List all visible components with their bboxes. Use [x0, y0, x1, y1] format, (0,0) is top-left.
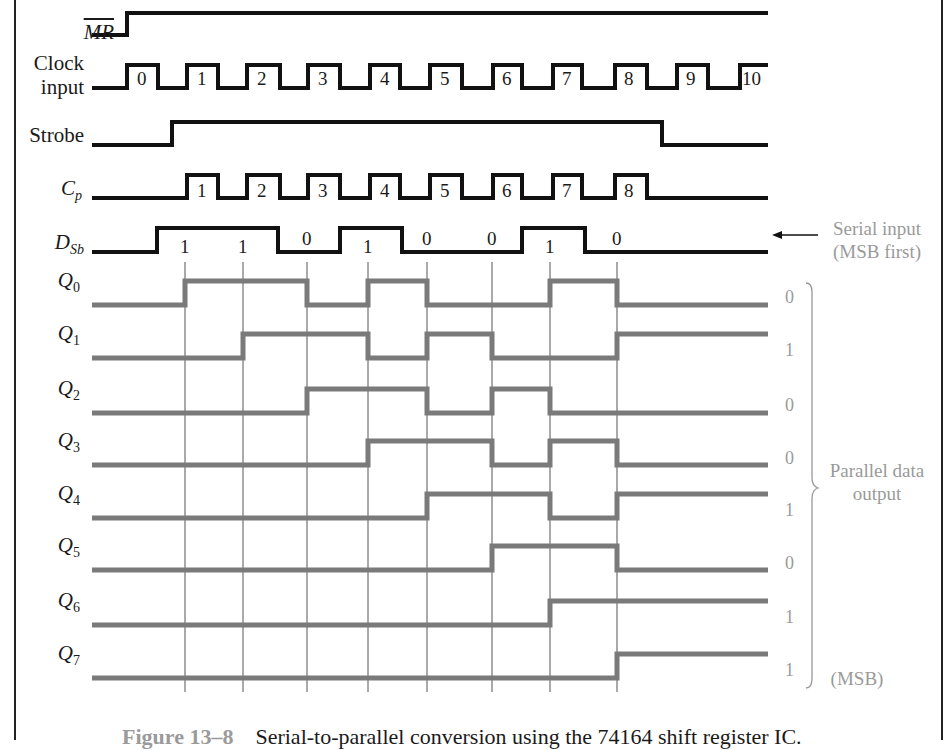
q4-waveform	[92, 494, 768, 518]
q-label-main: Q	[58, 428, 73, 452]
q-label-sub: 6	[73, 600, 80, 615]
q3-waveform	[92, 441, 768, 465]
q-label-sub: 2	[73, 388, 80, 403]
clock-pulse-label-8: 8	[624, 68, 634, 90]
figure-number: Figure 13–8	[122, 724, 233, 749]
q3-label: Q3	[20, 430, 80, 451]
q-label-main: Q	[58, 588, 73, 612]
msb-annotation: (MSB)	[826, 668, 888, 691]
q0-waveform	[92, 281, 768, 305]
dsb-label-sub: Sb	[70, 242, 84, 257]
cp-label: Cp	[20, 178, 82, 199]
dsb-bit-label-2: 1	[238, 236, 248, 258]
q-label-main: Q	[58, 321, 73, 345]
output-bit-q6: 1	[785, 607, 794, 628]
dsb-bit-label-5: 0	[422, 228, 432, 250]
dsb-label: DSb	[20, 232, 84, 253]
q2-waveform	[92, 389, 768, 413]
clock-label-line2: input	[20, 77, 84, 98]
clock-pulse-label-10: 10	[742, 68, 761, 90]
q4-label: Q4	[20, 483, 80, 504]
arrowhead-icon	[772, 231, 782, 239]
clock-waveform	[92, 65, 768, 88]
output-bit-q2: 0	[785, 395, 794, 416]
figure-caption-text: Serial-to-parallel conversion using the …	[255, 724, 801, 749]
q-label-main: Q	[58, 268, 73, 292]
dsb-bit-label-1: 1	[180, 236, 190, 258]
q-label-sub: 4	[73, 493, 80, 508]
q-label-sub: 1	[73, 333, 80, 348]
dsb-label-main: D	[55, 230, 70, 254]
mr-label-text: MR	[84, 20, 114, 44]
brace-icon	[806, 283, 818, 688]
cp-pulse-label-4: 4	[380, 180, 390, 202]
clock-pulse-label-1: 1	[197, 68, 207, 90]
serial-input-line1: Serial input	[822, 218, 932, 241]
cp-pulse-label-3: 3	[318, 180, 328, 202]
cp-pulse-label-7: 7	[562, 180, 572, 202]
q6-waveform	[92, 601, 768, 625]
q7-waveform	[92, 654, 768, 678]
clock-pulse-label-3: 3	[318, 68, 328, 90]
output-bit-q4: 1	[785, 500, 794, 521]
clock-label-line1: Clock	[20, 53, 84, 74]
clock-pulse-label-2: 2	[257, 68, 267, 90]
dsb-bit-label-7: 1	[545, 236, 555, 258]
figure-caption: Figure 13–8Serial-to-parallel conversion…	[122, 724, 802, 750]
dsb-bit-label-3: 0	[302, 228, 312, 250]
output-bit-q5: 0	[785, 553, 794, 574]
q7-label: Q7	[20, 643, 80, 664]
q-label-sub: 7	[73, 653, 80, 668]
q-label-main: Q	[58, 641, 73, 665]
dsb-bit-label-4: 1	[363, 236, 373, 258]
cp-pulse-label-1: 1	[197, 180, 207, 202]
output-bit-q3: 0	[785, 448, 794, 469]
clock-pulse-label-5: 5	[440, 68, 450, 90]
output-bit-q7: 1	[785, 660, 794, 681]
q-label-main: Q	[58, 376, 73, 400]
q-label-sub: 5	[73, 545, 80, 560]
q-label-main: Q	[58, 533, 73, 557]
clock-pulse-label-6: 6	[502, 68, 512, 90]
serial-input-line2: (MSB first)	[822, 241, 932, 264]
output-bit-q0: 0	[785, 287, 794, 308]
q1-waveform	[92, 334, 768, 358]
q5-label: Q5	[20, 535, 80, 556]
q6-label: Q6	[20, 590, 80, 611]
clock-label: Clock input	[20, 53, 84, 98]
q-label-sub: 0	[73, 280, 80, 295]
clock-pulse-label-7: 7	[562, 68, 572, 90]
cp-pulse-label-2: 2	[257, 180, 267, 202]
cp-pulse-label-8: 8	[624, 180, 634, 202]
clock-pulse-label-4: 4	[380, 68, 390, 90]
mr-label: MR	[40, 22, 114, 43]
q1-label: Q1	[20, 323, 80, 344]
q2-label: Q2	[20, 378, 80, 399]
dsb-bit-label-8: 0	[612, 228, 622, 250]
mr-waveform	[92, 13, 768, 35]
strobe-label: Strobe	[20, 125, 84, 146]
cp-waveform	[92, 175, 768, 198]
parallel-output-line1: Parallel data	[818, 460, 936, 483]
cp-label-main: C	[61, 176, 75, 200]
cp-pulse-label-5: 5	[440, 180, 450, 202]
strobe-waveform	[92, 122, 768, 145]
q5-waveform	[92, 546, 768, 570]
q-label-main: Q	[58, 481, 73, 505]
q0-label: Q0	[20, 270, 80, 291]
cp-label-sub: p	[75, 188, 82, 203]
output-bit-q1: 1	[785, 340, 794, 361]
cp-pulse-label-6: 6	[502, 180, 512, 202]
clock-pulse-label-9: 9	[686, 68, 696, 90]
clock-pulse-label-0: 0	[137, 68, 147, 90]
dsb-bit-label-6: 0	[487, 228, 497, 250]
parallel-output-annotation: Parallel data output	[818, 460, 936, 506]
parallel-output-line2: output	[818, 483, 936, 506]
serial-input-annotation: Serial input (MSB first)	[822, 218, 932, 264]
q-label-sub: 3	[73, 440, 80, 455]
